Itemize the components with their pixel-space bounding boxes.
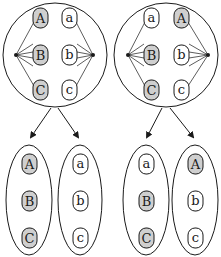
- node: C: [139, 228, 154, 248]
- node-label: B: [36, 48, 46, 63]
- node: b: [73, 191, 88, 211]
- node-label: c: [66, 82, 73, 97]
- hub-dot-left: [14, 53, 18, 57]
- node: a: [62, 8, 77, 28]
- node: c: [188, 228, 203, 248]
- node-label: b: [177, 47, 185, 62]
- node: a: [144, 8, 159, 28]
- node: B: [139, 191, 154, 211]
- node-label: c: [77, 230, 84, 245]
- node-label: A: [35, 11, 46, 26]
- node-label: b: [191, 193, 199, 208]
- arrow-icon: [58, 108, 78, 137]
- node: A: [174, 8, 189, 28]
- node-label: A: [176, 11, 187, 26]
- split-arrows-right: [147, 108, 193, 137]
- node: B: [22, 191, 37, 211]
- connector-lines-right: [188, 22, 208, 86]
- bottom-group-left-pair-left: A B C: [6, 145, 52, 255]
- node: C: [144, 80, 159, 100]
- node-label: C: [36, 83, 46, 98]
- node: B: [144, 45, 159, 65]
- node: C: [22, 228, 37, 248]
- node: b: [188, 191, 203, 211]
- node: b: [174, 45, 189, 65]
- node-label: C: [147, 83, 157, 98]
- node-label: a: [148, 10, 156, 25]
- node: B: [33, 45, 48, 65]
- node-label: a: [77, 156, 85, 171]
- node: A: [188, 154, 203, 174]
- node-label: b: [65, 47, 73, 62]
- hub-dot-right: [91, 53, 95, 57]
- arrow-icon: [170, 108, 193, 137]
- split-arrows-left: [31, 108, 78, 137]
- node-label: A: [190, 157, 201, 172]
- partition-diagram: A B C a b c: [0, 0, 221, 257]
- bottom-group-right-pair-left: a B C: [123, 145, 169, 255]
- connector-lines-left: [128, 22, 145, 86]
- node-label: C: [25, 231, 35, 246]
- node-label: C: [142, 231, 152, 246]
- top-group-right: a B C A b c: [114, 3, 218, 107]
- hub-dot-right: [206, 53, 210, 57]
- node-label: A: [24, 157, 35, 172]
- node-label: a: [66, 10, 74, 25]
- node-label: c: [178, 82, 185, 97]
- hub-dot-left: [126, 53, 130, 57]
- node-label: B: [142, 194, 152, 209]
- bottom-group-left-pair-right: a b c: [58, 145, 102, 255]
- node-label: a: [143, 156, 151, 171]
- connector-lines-right: [76, 22, 93, 86]
- node: a: [139, 154, 154, 174]
- node: b: [62, 45, 77, 65]
- bottom-group-right-pair-right: A b c: [172, 145, 218, 255]
- node-label: c: [192, 230, 199, 245]
- node: c: [73, 228, 88, 248]
- node: A: [22, 154, 37, 174]
- connector-lines-left: [16, 22, 34, 86]
- node: C: [33, 80, 48, 100]
- arrow-icon: [31, 108, 51, 137]
- arrow-icon: [147, 108, 162, 137]
- node: a: [73, 154, 88, 174]
- node: A: [33, 8, 48, 28]
- node-label: B: [147, 48, 157, 63]
- top-group-left: A B C a b c: [3, 3, 107, 107]
- node-label: B: [25, 194, 35, 209]
- node-label: b: [76, 193, 84, 208]
- node: c: [174, 80, 189, 100]
- node: c: [62, 80, 77, 100]
